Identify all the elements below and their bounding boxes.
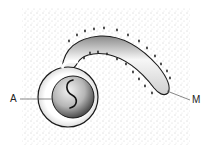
diagram-figure: A M (0, 0, 210, 153)
inner-core (52, 76, 94, 118)
label-m: M (192, 95, 200, 105)
label-a: A (10, 94, 17, 104)
diagram-svg (0, 0, 210, 153)
